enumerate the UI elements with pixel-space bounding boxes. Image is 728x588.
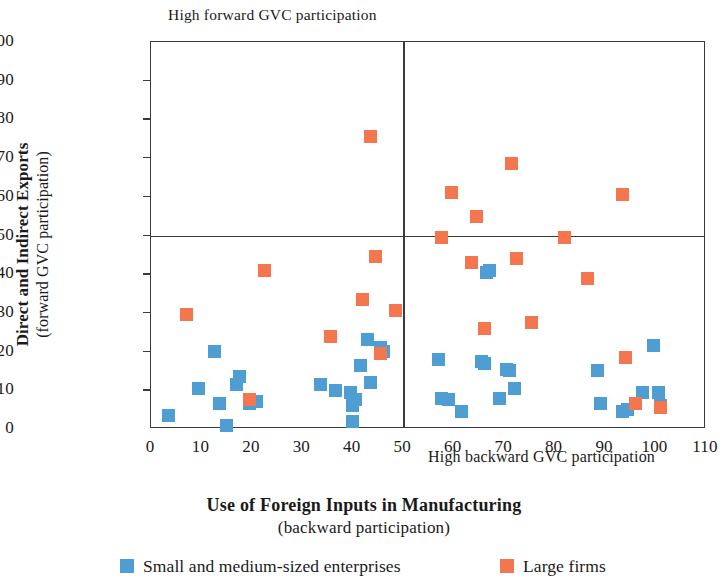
data-point-large	[465, 256, 478, 269]
y-tick-mark	[143, 196, 150, 197]
y-tick-mark	[143, 351, 150, 352]
x-tick-label: 110	[675, 438, 728, 455]
data-point-sme	[361, 333, 374, 346]
data-point-large	[445, 186, 458, 199]
y-tick-label: 30	[0, 303, 14, 320]
data-point-sme	[346, 415, 359, 428]
x-axis-title-primary: Use of Foreign Inputs in Manufacturing	[0, 495, 728, 516]
data-point-large	[478, 322, 491, 335]
data-point-sme	[591, 364, 604, 377]
data-point-large	[616, 188, 629, 201]
data-point-large	[629, 397, 642, 410]
data-point-large	[654, 401, 667, 414]
legend-swatch-icon	[500, 559, 514, 573]
y-tick-label: 90	[0, 71, 14, 88]
legend-label: Large firms	[523, 556, 606, 576]
data-point-large	[258, 264, 271, 277]
data-point-large	[389, 304, 402, 317]
data-point-sme	[329, 384, 342, 397]
data-point-large	[243, 393, 256, 406]
data-point-large	[324, 330, 337, 343]
data-point-sme	[349, 393, 362, 406]
y-tick-label: 80	[0, 109, 14, 126]
x-axis-title-secondary: (backward participation)	[0, 518, 728, 538]
y-tick-label: 60	[0, 187, 14, 204]
quadrant-divider-vertical	[403, 42, 404, 427]
data-point-large	[364, 130, 377, 143]
data-point-sme	[213, 397, 226, 410]
data-point-sme	[508, 382, 521, 395]
data-point-sme	[364, 376, 377, 389]
data-point-sme	[652, 386, 665, 399]
chart-legend: Small and medium-sized enterprises Large…	[0, 556, 728, 584]
x-axis-annotation: High backward GVC participation	[428, 448, 655, 466]
data-point-large	[581, 272, 594, 285]
y-tick-mark	[143, 389, 150, 390]
data-point-sme	[233, 370, 246, 383]
data-point-sme	[208, 345, 221, 358]
data-point-sme	[354, 359, 367, 372]
y-tick-label: 0	[0, 419, 14, 436]
y-tick-label: 10	[0, 380, 14, 397]
y-tick-mark	[143, 235, 150, 236]
y-tick-mark	[143, 157, 150, 158]
data-point-large	[619, 351, 632, 364]
legend-swatch-icon	[120, 559, 134, 573]
data-point-sme	[503, 364, 516, 377]
data-point-large	[374, 347, 387, 360]
data-point-sme	[647, 339, 660, 352]
y-tick-mark	[143, 273, 150, 274]
y-axis-label-primary: Direct and Indirect Exports	[13, 95, 33, 395]
y-tick-mark	[143, 118, 150, 119]
legend-label: Small and medium-sized enterprises	[143, 556, 401, 576]
data-point-sme	[442, 393, 455, 406]
data-point-large	[435, 231, 448, 244]
quadrant-divider-horizontal	[151, 236, 704, 237]
data-point-sme	[192, 382, 205, 395]
legend-item-sme[interactable]: Small and medium-sized enterprises	[120, 556, 401, 576]
legend-item-large[interactable]: Large firms	[500, 556, 606, 576]
data-point-large	[470, 210, 483, 223]
data-point-large	[510, 252, 523, 265]
y-tick-label: 40	[0, 264, 14, 281]
data-point-sme	[478, 357, 491, 370]
data-point-sme	[220, 419, 233, 432]
data-point-large	[180, 308, 193, 321]
data-point-sme	[455, 405, 468, 418]
top-annotation: High forward GVC participation	[168, 6, 377, 24]
data-point-large	[369, 250, 382, 263]
data-point-large	[525, 316, 538, 329]
data-point-sme	[162, 409, 175, 422]
chart-figure: High forward GVC participation Direct an…	[0, 0, 728, 588]
y-tick-mark	[143, 312, 150, 313]
y-axis-label-secondary: (forward GVC participation)	[34, 95, 52, 395]
y-tick-label: 100	[0, 32, 14, 49]
y-axis-label: Direct and Indirect Exports (forward GVC…	[13, 95, 52, 395]
data-point-sme	[432, 353, 445, 366]
y-tick-label: 20	[0, 342, 14, 359]
x-axis-title: Use of Foreign Inputs in Manufacturing (…	[0, 495, 728, 538]
data-point-sme	[483, 264, 496, 277]
y-tick-mark	[143, 80, 150, 81]
y-tick-label: 50	[0, 226, 14, 243]
data-point-sme	[314, 378, 327, 391]
data-point-large	[558, 231, 571, 244]
data-point-sme	[493, 392, 506, 405]
data-point-large	[505, 157, 518, 170]
y-tick-label: 70	[0, 148, 14, 165]
plot-area	[150, 41, 705, 428]
data-point-sme	[594, 397, 607, 410]
data-point-large	[356, 293, 369, 306]
